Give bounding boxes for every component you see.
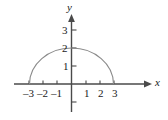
x-axis [14, 81, 152, 88]
x-axis-label: x [155, 77, 160, 88]
x-tick-label-neg2: –2 [37, 88, 48, 99]
y-tick-label-3: 3 [62, 25, 68, 36]
x-tick-label-neg3: –3 [23, 88, 34, 99]
x-tick-label-1: 1 [84, 88, 90, 99]
coordinate-plane-svg [0, 0, 168, 120]
y-axis [68, 14, 76, 112]
x-axis-arrowhead [144, 81, 152, 88]
y-axis-arrowhead [68, 14, 75, 22]
x-tick-label-3: 3 [112, 88, 118, 99]
y-axis-label: y [67, 2, 72, 13]
y-tick-label-2: 2 [62, 43, 68, 54]
y-tick-label-1: 1 [63, 61, 69, 72]
y-axis-tick-marks [72, 30, 77, 102]
graph-figure: –3 –2 –1 1 2 3 3 2 1 y x [0, 0, 168, 120]
x-tick-label-neg1: –1 [51, 88, 62, 99]
x-tick-label-2: 2 [98, 88, 104, 99]
